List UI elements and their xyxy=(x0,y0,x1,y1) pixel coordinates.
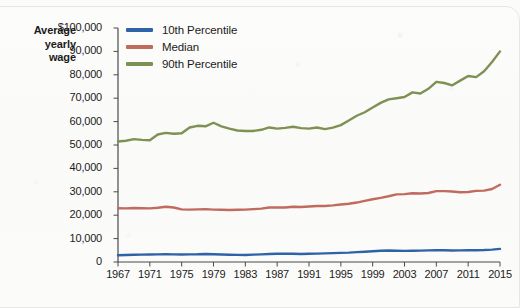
legend-color-swatch xyxy=(126,28,153,32)
series-paths xyxy=(118,51,500,255)
x-axis-tick-label: 1995 xyxy=(329,268,353,280)
legend-item-label: 90th Percentile xyxy=(162,58,237,70)
chart-legend: 10th PercentileMedian90th Percentile xyxy=(126,22,237,73)
legend-item[interactable]: 10th Percentile xyxy=(126,22,237,38)
x-axis-tick-label: 1983 xyxy=(233,268,257,280)
x-axis-tick-label: 1979 xyxy=(202,268,226,280)
x-axis-tick-labels: 1967197119751979198319871991199519992003… xyxy=(0,268,513,288)
legend-item[interactable]: 90th Percentile xyxy=(126,56,237,72)
x-axis-tick-label: 2003 xyxy=(393,268,417,280)
x-axis-tick-label: 2015 xyxy=(488,268,512,280)
legend-color-swatch xyxy=(126,62,153,66)
x-axis-tick-label: 1975 xyxy=(170,268,194,280)
x-axis-tick-label: 2007 xyxy=(424,268,448,280)
series-line-median xyxy=(118,185,500,210)
legend-item[interactable]: Median xyxy=(126,39,237,55)
x-axis-tick-label: 1991 xyxy=(297,268,321,280)
legend-item-label: Median xyxy=(162,41,199,53)
x-axis-tick-label: 2011 xyxy=(457,268,480,280)
x-axis-tick-label: 1971 xyxy=(138,268,162,280)
x-axis-tick-label: 1987 xyxy=(265,268,289,280)
series-line-10th-percentile xyxy=(118,249,500,255)
legend-item-label: 10th Percentile xyxy=(162,24,237,36)
x-axis-tick-label: 1999 xyxy=(361,268,385,280)
x-axis-tick-label: 1967 xyxy=(106,268,130,280)
legend-color-swatch xyxy=(126,45,153,49)
